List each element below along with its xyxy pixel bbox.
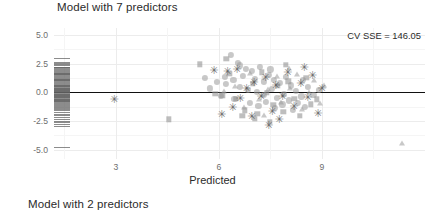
marker-triangle (265, 87, 271, 92)
marker-asterisk: ✳ (217, 108, 226, 119)
residual-plot-figure: Model with 7 predictors ✳✳✳✳✳✳✳✳✳✳✳✳✳✳✳✳… (0, 0, 425, 218)
panel-title-bottom: Model with 2 predictors (28, 198, 149, 210)
marker-triangle (241, 104, 247, 109)
marker-circle (247, 100, 253, 106)
marker-circle (202, 75, 208, 81)
x-tick-label: 9 (320, 162, 325, 172)
gridline-vertical-minor (270, 28, 271, 159)
marker-asterisk: ✳ (289, 100, 298, 111)
marker-triangle (399, 141, 405, 146)
marker-circle (223, 81, 229, 87)
gridline-vertical-minor (373, 28, 374, 159)
marker-circle (230, 77, 236, 83)
marker-asterisk: ✳ (228, 101, 237, 112)
marker-asterisk: ✳ (249, 77, 258, 88)
marker-square (224, 56, 229, 61)
x-tick-label: 6 (216, 162, 221, 172)
y-tick-label: -5.0 (0, 145, 48, 155)
panel-title-top: Model with 7 predictors (57, 1, 178, 13)
marker-asterisk: ✳ (256, 91, 265, 102)
marker-asterisk: ✳ (232, 63, 241, 74)
marker-asterisk: ✳ (308, 70, 317, 81)
marker-triangle (287, 86, 293, 91)
rug-tick (54, 126, 70, 127)
marker-triangle (261, 112, 267, 117)
gridline-horizontal-minor (54, 107, 425, 108)
gridline-vertical-minor (167, 28, 168, 159)
marker-asterisk: ✳ (317, 82, 326, 93)
marker-triangle (299, 107, 305, 112)
marker-triangle (221, 89, 227, 94)
rug-tick (54, 58, 70, 59)
marker-asterisk: ✳ (296, 77, 305, 88)
marker-asterisk: ✳ (278, 91, 287, 102)
marker-asterisk: ✳ (303, 91, 312, 102)
marker-asterisk: ✳ (283, 66, 292, 77)
marker-square (240, 113, 245, 118)
marker-asterisk: ✳ (264, 120, 273, 131)
marker-asterisk: ✳ (209, 64, 218, 75)
cv-sse-annotation: CV SSE = 146.05 (347, 30, 421, 41)
gridline-horizontal (54, 150, 425, 151)
y-tick-label: 5.0 (0, 30, 48, 40)
gridline-horizontal-minor (54, 49, 425, 50)
y-tick-label: 0.0 (0, 87, 48, 97)
marker-asterisk: ✳ (247, 111, 256, 122)
marker-square (297, 113, 302, 118)
marker-asterisk: ✳ (261, 71, 270, 82)
marker-asterisk: ✳ (223, 65, 232, 76)
y-tick-label: -2.5 (0, 116, 48, 126)
y-tick-label: 2.5 (0, 59, 48, 69)
marker-triangle (232, 84, 238, 89)
rug-tick (54, 147, 70, 148)
marker-asterisk: ✳ (274, 114, 283, 125)
marker-square (213, 91, 218, 96)
marker-asterisk: ✳ (299, 61, 308, 72)
x-axis-title: Predicted (0, 174, 425, 186)
gridline-horizontal (54, 121, 425, 122)
marker-asterisk: ✳ (271, 79, 280, 90)
marker-square (197, 61, 202, 66)
marker-circle (255, 102, 261, 108)
marker-triangle (317, 101, 323, 106)
x-tick-label: 3 (113, 162, 118, 172)
marker-asterisk: ✳ (110, 93, 119, 104)
gridline-horizontal-minor (54, 78, 425, 79)
marker-square (166, 117, 171, 122)
marker-asterisk: ✳ (313, 108, 322, 119)
gridline-horizontal-minor (54, 135, 425, 136)
marker-square (286, 79, 291, 84)
plot-panel: ✳✳✳✳✳✳✳✳✳✳✳✳✳✳✳✳✳✳✳✳✳✳✳✳✳ CV SSE = 146.0… (54, 28, 425, 159)
